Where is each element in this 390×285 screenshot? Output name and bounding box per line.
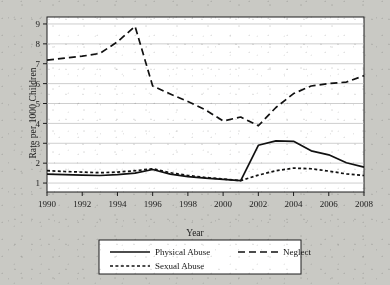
- chart-canvas: 123456789 199019921994199619982000200220…: [0, 0, 390, 285]
- legend-label-neglect: Neglect: [283, 247, 311, 257]
- x-tick-label: 1992: [73, 199, 91, 209]
- x-tick-label: 2006: [320, 199, 339, 209]
- x-axis-label: Year: [0, 228, 390, 238]
- x-tick-label: 1990: [38, 199, 57, 209]
- x-tick-label: 1994: [108, 199, 127, 209]
- line-chart-svg: 123456789 199019921994199619982000200220…: [0, 0, 390, 285]
- x-tick-label: 1996: [144, 199, 163, 209]
- x-axis-ticks: 1990199219941996199820002002200420062008: [38, 192, 374, 209]
- y-tick-label: 9: [36, 19, 41, 29]
- x-tick-label: 2002: [249, 199, 267, 209]
- legend-label-physical-abuse: Physical Abuse: [155, 247, 210, 257]
- x-tick-label: 2008: [355, 199, 374, 209]
- plot-area-background: [47, 17, 364, 192]
- chart-figure: 123456789 199019921994199619982000200220…: [0, 0, 390, 285]
- x-tick-label: 1998: [179, 199, 198, 209]
- legend-label-sexual-abuse: Sexual Abuse: [155, 261, 204, 271]
- x-tick-label: 2004: [285, 199, 304, 209]
- y-axis-label: Rate per 1000 Children: [28, 33, 38, 193]
- x-tick-label: 2000: [214, 199, 233, 209]
